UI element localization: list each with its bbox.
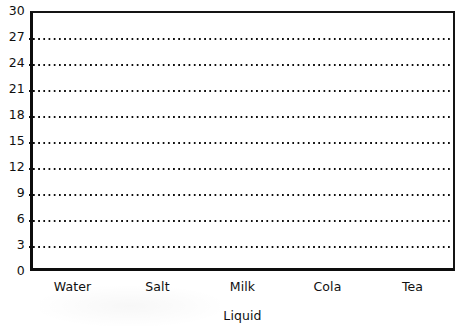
x-axis-label-tea: Tea (402, 280, 423, 294)
y-axis-label: 18 (0, 109, 25, 122)
y-axis-label: 21 (0, 83, 25, 96)
y-axis-label: 27 (0, 31, 25, 44)
y-axis-label: 9 (0, 187, 25, 200)
chart-container: 036912151821242730 WaterSaltMilkColaTea … (0, 0, 469, 331)
x-axis-label-water: Water (54, 280, 91, 294)
y-axis-label: 12 (0, 161, 25, 174)
y-axis-label: 24 (0, 57, 25, 70)
y-axis-label: 15 (0, 135, 25, 148)
x-axis-title: Liquid (223, 309, 261, 323)
x-axis-label-salt: Salt (145, 280, 169, 294)
y-axis-label: 6 (0, 213, 25, 226)
y-axis-label: 0 (0, 265, 25, 278)
y-axis-label: 30 (0, 5, 25, 18)
x-axis: WaterSaltMilkColaTea (0, 280, 469, 298)
x-axis-label-milk: Milk (230, 280, 255, 294)
y-axis-label: 3 (0, 239, 25, 252)
y-axis: 036912151821242730 (0, 11, 469, 271)
x-axis-label-cola: Cola (314, 280, 342, 294)
